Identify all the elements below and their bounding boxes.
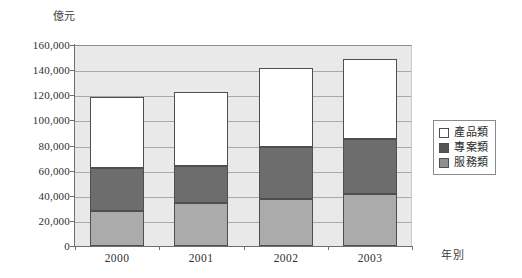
y-axis-tick-mark: [70, 45, 75, 46]
y-axis-tick-mark: [70, 221, 75, 222]
y-axis-tick-label: 20,000: [4, 216, 70, 227]
bar-segment: [343, 139, 397, 194]
bar-segment: [259, 199, 313, 246]
dark-gray-square-icon: [439, 143, 449, 153]
bar-segment: [174, 203, 228, 246]
y-axis-tick-mark: [70, 95, 75, 96]
x-axis-tick-label: 2002: [246, 252, 326, 265]
x-axis-tick-label: 2000: [77, 252, 157, 265]
bar-segment: [343, 59, 397, 139]
x-axis-tick-mark: [75, 246, 76, 250]
x-axis-tick-label: 2003: [330, 252, 410, 265]
bar-group: [174, 45, 228, 246]
bar-segment: [174, 92, 228, 166]
stacked-bar-chart: 億元 160,000140,000120,000100,00080,00060,…: [0, 0, 522, 278]
y-axis-tick-label: 100,000: [4, 115, 70, 126]
x-axis-tick-mark: [159, 246, 160, 250]
x-axis-tick-mark: [412, 246, 413, 250]
bar-segment: [259, 147, 313, 199]
y-axis-tick-label: 140,000: [4, 65, 70, 76]
bar-group: [259, 45, 313, 246]
y-axis-tick-label: 120,000: [4, 90, 70, 101]
y-axis-tick-mark: [70, 120, 75, 121]
bar-segment: [90, 168, 144, 211]
legend-item-label: 服務類: [454, 156, 489, 169]
plot-area: [75, 45, 412, 246]
bar-segment: [90, 97, 144, 169]
bar-segment: [174, 166, 228, 204]
y-axis-tick-mark: [70, 171, 75, 172]
y-axis-tick-label: 160,000: [4, 40, 70, 51]
white-square-icon: [439, 128, 449, 138]
chart-legend: 產品類 專案類 服務類: [433, 120, 496, 175]
x-axis-title: 年別: [441, 249, 464, 262]
bar-segment: [259, 68, 313, 147]
y-axis-tick-label: 0: [4, 241, 70, 252]
legend-item-label: 專案類: [454, 141, 489, 154]
x-axis-tick-mark: [328, 246, 329, 250]
y-axis-tick-label: 80,000: [4, 141, 70, 152]
bar-group: [343, 45, 397, 246]
y-axis-tick-label: 40,000: [4, 191, 70, 202]
bar-group: [90, 45, 144, 246]
legend-item: 服務類: [439, 155, 489, 170]
x-axis-tick-mark: [244, 246, 245, 250]
legend-item-label: 產品類: [454, 126, 489, 139]
medium-gray-square-icon: [439, 158, 449, 168]
x-axis-tick-label: 2001: [161, 252, 241, 265]
y-axis-tick-labels: 160,000140,000120,000100,00080,00060,000…: [0, 45, 70, 246]
bar-segment: [90, 211, 144, 246]
legend-item: 專案類: [439, 140, 489, 155]
y-axis-unit-label: 億元: [36, 10, 92, 23]
y-axis-tick-label: 60,000: [4, 166, 70, 177]
y-axis-tick-mark: [70, 146, 75, 147]
y-axis-tick-mark: [70, 196, 75, 197]
legend-item: 產品類: [439, 125, 489, 140]
bar-segment: [343, 194, 397, 246]
y-axis-tick-mark: [70, 70, 75, 71]
